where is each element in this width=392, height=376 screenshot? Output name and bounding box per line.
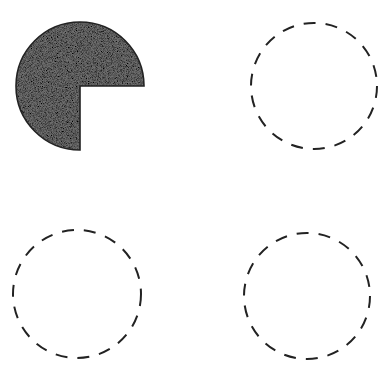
- dashed-circle-top-right: [251, 23, 377, 149]
- dashed-circle-bottom-left: [13, 230, 141, 358]
- pie-three-quarters: [16, 22, 144, 150]
- dashed-circle-bottom-right: [244, 233, 370, 359]
- diagram-canvas: [0, 0, 392, 376]
